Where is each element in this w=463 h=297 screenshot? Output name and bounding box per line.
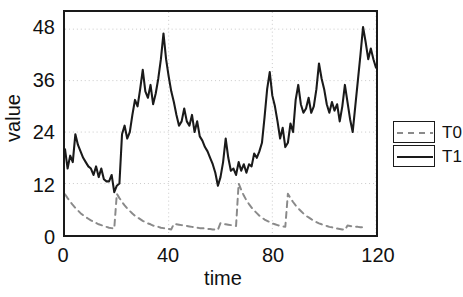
y-tick-label-12: 12 — [9, 175, 55, 195]
series-t1 — [65, 27, 376, 192]
x-axis-title: time — [148, 268, 298, 288]
plot-area — [63, 10, 378, 237]
x-tick-label-80: 80 — [243, 245, 303, 265]
chart-canvas: 0 12 24 36 48 value time 0 40 80 120 T0 — [0, 0, 463, 297]
series-t0 — [65, 184, 366, 230]
x-tick-label-120: 120 — [348, 245, 408, 265]
y-axis-title: value — [3, 83, 23, 153]
y-tick-label-0: 0 — [9, 227, 55, 247]
legend-swatch-t1 — [393, 145, 435, 167]
legend: T0 T1 — [393, 120, 462, 168]
x-tick-label-0: 0 — [33, 245, 93, 265]
legend-swatch-t0 — [393, 121, 435, 143]
x-tick-label-40: 40 — [138, 245, 198, 265]
legend-entry-t0[interactable]: T0 — [393, 120, 462, 144]
y-tick-label-48: 48 — [9, 17, 55, 37]
series-lines — [65, 12, 376, 235]
legend-label-t1: T1 — [442, 148, 462, 165]
legend-entry-t1[interactable]: T1 — [393, 144, 462, 168]
legend-label-t0: T0 — [442, 124, 462, 141]
